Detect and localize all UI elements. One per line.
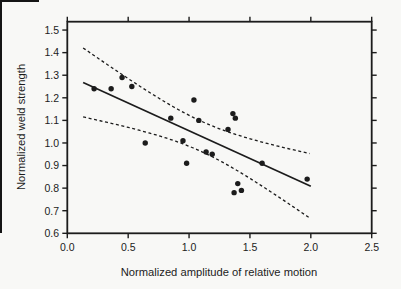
data-point [191,97,196,102]
data-point [108,86,113,91]
scatter-points [91,75,309,196]
x-tick-label: 1.0 [182,241,197,253]
y-tick-label: 0.8 [44,182,59,194]
data-point [129,84,134,89]
y-tick-label: 1.2 [44,92,59,104]
data-point [196,118,201,123]
scan-edge-top [0,0,39,2]
data-point [91,86,96,91]
x-axis-label: Normalized amplitude of relative motion [121,266,318,278]
y-tick-label: 0.6 [44,227,59,239]
data-point [259,161,264,166]
data-point [225,127,230,132]
data-point [239,188,244,193]
fit-line-layer [83,82,311,186]
y-tick-label: 1.0 [44,137,59,149]
y-axis-label: Normalized weld strength [15,64,27,190]
y-tick-label: 0.7 [44,205,59,217]
data-point [203,149,208,154]
y-tick-label: 1.3 [44,69,59,81]
plot-frame [67,22,371,234]
confidence-band [83,48,309,218]
confidence-band-lower [83,117,309,218]
regression-line [83,82,311,186]
x-tick-label: 2.5 [364,241,379,253]
x-tick-label: 2.0 [304,241,319,253]
x-tick-label: 0.5 [121,241,136,253]
y-tick-label: 1.4 [44,46,59,58]
y-tick-label: 1.1 [44,114,59,126]
data-point [304,176,309,181]
axis-ticks [62,17,376,239]
x-tick-label: 0.0 [60,241,75,253]
data-point [184,161,189,166]
axes-frame [67,22,371,234]
scatter-plot: 0.00.51.01.52.02.50.60.70.80.91.01.11.21… [0,0,401,289]
data-point [168,115,173,120]
data-point [233,115,238,120]
scan-edge-left [0,0,2,233]
tick-labels: 0.00.51.01.52.02.50.60.70.80.91.01.11.21… [44,24,379,253]
figure-weld-strength-scatter: 0.00.51.01.52.02.50.60.70.80.91.01.11.21… [0,0,401,289]
y-tick-label: 0.9 [44,159,59,171]
data-point [209,152,214,157]
x-tick-label: 1.5 [243,241,258,253]
data-point [143,140,148,145]
data-point [231,190,236,195]
data-point [235,181,240,186]
data-point [119,75,124,80]
y-tick-label: 1.5 [44,24,59,36]
data-point [180,138,185,143]
